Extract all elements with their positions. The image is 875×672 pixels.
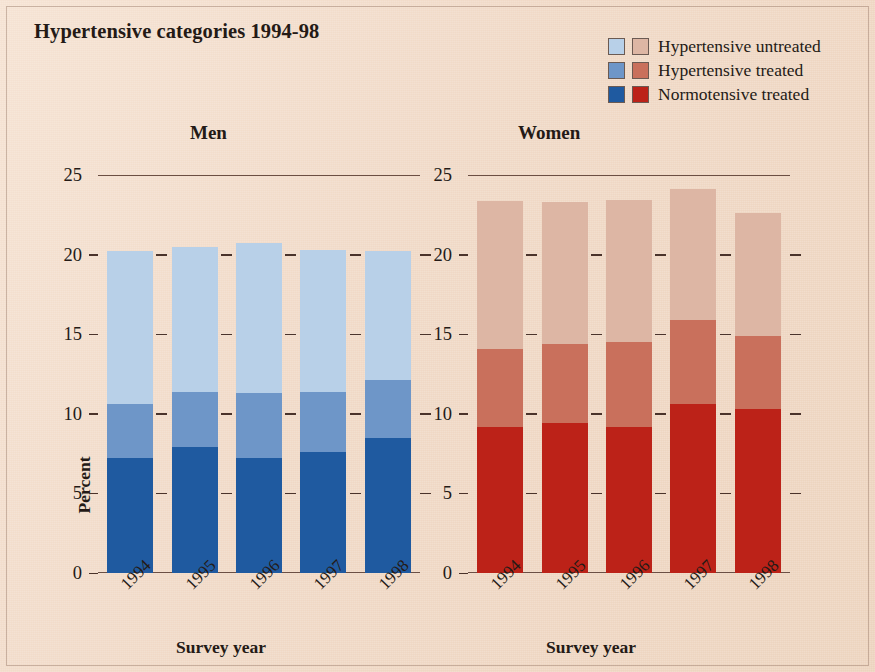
gridline-dash-men xyxy=(221,254,232,256)
gridline-dash-women xyxy=(591,254,602,256)
legend-swatch-men-hyper-treated xyxy=(608,62,625,79)
gridline-dash-men xyxy=(285,334,296,336)
gridline-dash-men xyxy=(221,493,232,495)
bar-segment-men-1995-hypertensive-untreated xyxy=(172,247,218,392)
gridline-dash-women xyxy=(720,493,731,495)
bar-women-1998[interactable] xyxy=(735,213,781,573)
gridline-dash-men xyxy=(156,413,167,415)
gridline-dash-men xyxy=(285,493,296,495)
y-tick-women-15 xyxy=(459,334,468,336)
y-tick-label-women-5: 5 xyxy=(412,483,452,504)
gridline-dash-men xyxy=(350,334,361,336)
bar-women-1994[interactable] xyxy=(477,201,523,574)
legend-swatch-women-normo-treated xyxy=(632,86,649,103)
gridline-dash-men xyxy=(350,254,361,256)
bar-segment-women-1994-hypertensive-treated xyxy=(477,349,523,427)
gridline-dash-women xyxy=(720,254,731,256)
bar-men-1998[interactable] xyxy=(365,251,411,573)
bar-segment-women-1995-hypertensive-untreated xyxy=(542,202,588,344)
bar-segment-men-1994-hypertensive-treated xyxy=(107,404,153,457)
gridline-dash-women xyxy=(591,334,602,336)
page-title: Hypertensive categories 1994-98 xyxy=(34,20,319,43)
chart-plot-women: 0510152025 xyxy=(468,175,790,573)
y-tick-label-men-5: 5 xyxy=(42,483,82,504)
bar-women-1997[interactable] xyxy=(670,189,716,573)
y-tick-label-men-0: 0 xyxy=(42,563,82,584)
bar-men-1995[interactable] xyxy=(172,247,218,573)
legend-item-hypertensive-untreated: Hypertensive untreated xyxy=(608,36,821,57)
legend-item-hypertensive-treated: Hypertensive treated xyxy=(608,60,821,81)
bar-segment-men-1994-hypertensive-untreated xyxy=(107,251,153,404)
bar-segment-women-1995-normotensive-treated xyxy=(542,423,588,573)
bar-segment-men-1995-hypertensive-treated xyxy=(172,392,218,448)
legend-item-normotensive-treated: Normotensive treated xyxy=(608,84,821,105)
gridline-dash-men xyxy=(156,334,167,336)
y-tick-men-20 xyxy=(89,254,98,256)
bar-segment-women-1996-hypertensive-treated xyxy=(606,342,652,426)
y-tick-women-0 xyxy=(459,573,468,575)
gridline-dash-women xyxy=(655,334,666,336)
bar-segment-women-1998-normotensive-treated xyxy=(735,409,781,573)
legend-swatch-men-untreated xyxy=(608,38,625,55)
gridline-dash-men xyxy=(350,413,361,415)
y-tick-men-0 xyxy=(89,573,98,575)
legend: Hypertensive untreated Hypertensive trea… xyxy=(608,36,821,105)
bar-segment-men-1998-hypertensive-untreated xyxy=(365,251,411,380)
gridline-dash-men xyxy=(156,493,167,495)
gridline-dash-women xyxy=(526,493,537,495)
bar-segment-men-1998-normotensive-treated xyxy=(365,438,411,573)
bar-women-1996[interactable] xyxy=(606,200,652,573)
bar-segment-women-1998-hypertensive-untreated xyxy=(735,213,781,336)
gridline-dash-men xyxy=(221,334,232,336)
gridline-dash-right-women xyxy=(790,493,801,495)
legend-label-hyper-treated: Hypertensive treated xyxy=(658,60,803,81)
bar-segment-women-1996-hypertensive-untreated xyxy=(606,200,652,342)
x-axis-title-women: Survey year xyxy=(546,637,636,658)
subplot-title-men: Men xyxy=(190,122,227,144)
gridline-dash-right-women xyxy=(790,254,801,256)
gridline-dash-women xyxy=(720,334,731,336)
bar-men-1997[interactable] xyxy=(300,250,346,573)
y-tick-women-5 xyxy=(459,493,468,495)
bar-segment-men-1996-hypertensive-treated xyxy=(236,393,282,457)
bar-segment-women-1996-normotensive-treated xyxy=(606,427,652,573)
y-tick-label-women-15: 15 xyxy=(412,324,452,345)
y-tick-label-women-0: 0 xyxy=(412,563,452,584)
gridline-dash-women xyxy=(526,334,537,336)
bar-segment-men-1997-hypertensive-untreated xyxy=(300,250,346,392)
bar-segment-men-1994-normotensive-treated xyxy=(107,458,153,573)
bar-women-1995[interactable] xyxy=(542,202,588,573)
bar-segment-men-1996-hypertensive-untreated xyxy=(236,243,282,393)
gridline-dash-men xyxy=(156,254,167,256)
gridline-dash-women xyxy=(720,413,731,415)
bar-segment-women-1994-normotensive-treated xyxy=(477,427,523,573)
y-tick-men-10 xyxy=(89,413,98,415)
y-tick-label-men-25: 25 xyxy=(42,165,82,186)
y-tick-men-5 xyxy=(89,493,98,495)
gridline-dash-women xyxy=(655,254,666,256)
y-tick-women-10 xyxy=(459,413,468,415)
bar-segment-women-1994-hypertensive-untreated xyxy=(477,201,523,349)
chart-plot-men: Percent 0510152025 xyxy=(98,175,420,573)
bar-segment-men-1997-hypertensive-treated xyxy=(300,392,346,452)
bar-segment-women-1998-hypertensive-treated xyxy=(735,336,781,409)
bar-segment-men-1996-normotensive-treated xyxy=(236,458,282,573)
subplot-title-women: Women xyxy=(518,122,580,144)
gridline-dash-men xyxy=(285,413,296,415)
legend-label-normo-treated: Normotensive treated xyxy=(658,84,809,105)
gridline-dash-right-women xyxy=(790,334,801,336)
y-tick-women-20 xyxy=(459,254,468,256)
gridline-dash-men xyxy=(350,493,361,495)
gridline-dash-men xyxy=(285,254,296,256)
bar-men-1996[interactable] xyxy=(236,243,282,573)
bar-men-1994[interactable] xyxy=(107,251,153,573)
bar-segment-men-1995-normotensive-treated xyxy=(172,447,218,573)
bar-segment-women-1995-hypertensive-treated xyxy=(542,344,588,424)
y-tick-label-men-15: 15 xyxy=(42,324,82,345)
top-rule-men xyxy=(98,175,420,176)
y-tick-men-15 xyxy=(89,334,98,336)
legend-swatch-men-normo-treated xyxy=(608,86,625,103)
bar-segment-women-1997-normotensive-treated xyxy=(670,404,716,573)
gridline-dash-right-women xyxy=(790,413,801,415)
gridline-dash-women xyxy=(655,413,666,415)
